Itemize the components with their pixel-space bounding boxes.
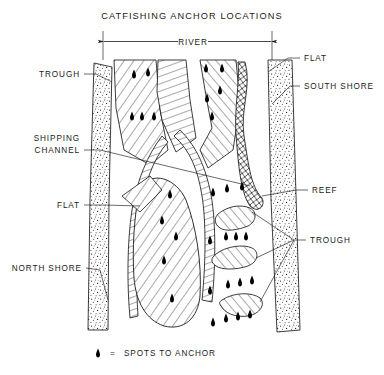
label-south-shore: SOUTH SHORE — [304, 82, 374, 91]
page-title: CATFISHING ANCHOR LOCATIONS — [101, 11, 282, 21]
trough-blob-upper — [215, 206, 255, 230]
label-trough-right: TROUGH — [310, 236, 351, 245]
river-dimension: RIVER — [103, 31, 272, 60]
label-flat-left: FLAT — [57, 201, 80, 210]
flat-upper-right — [200, 60, 240, 168]
south-shore-band — [268, 60, 300, 332]
label-flat-right: FLAT — [304, 54, 327, 63]
label-shipping-channel-line1: SHIPPING — [34, 134, 80, 143]
north-shore-band — [88, 63, 112, 330]
legend: = SPOTS TO ANCHOR — [96, 349, 216, 358]
reef-shape — [236, 62, 263, 209]
trough-blob-middle — [212, 246, 257, 269]
label-north-shore: NORTH SHORE — [12, 264, 82, 273]
label-reef: REEF — [312, 186, 337, 195]
legend-text: SPOTS TO ANCHOR — [124, 349, 216, 358]
trough-blob-lower — [220, 294, 263, 317]
label-shipping-channel-line2: CHANNEL — [35, 146, 80, 155]
river-label: RIVER — [178, 38, 208, 47]
diagram-canvas: CATFISHING ANCHOR LOCATIONS RIVER — [0, 0, 384, 375]
label-trough-top-left: TROUGH — [39, 70, 80, 79]
legend-equals: = — [110, 349, 116, 358]
legend-anchor-spot-icon — [96, 349, 100, 358]
catfishing-anchor-map: CATFISHING ANCHOR LOCATIONS RIVER — [0, 0, 384, 375]
